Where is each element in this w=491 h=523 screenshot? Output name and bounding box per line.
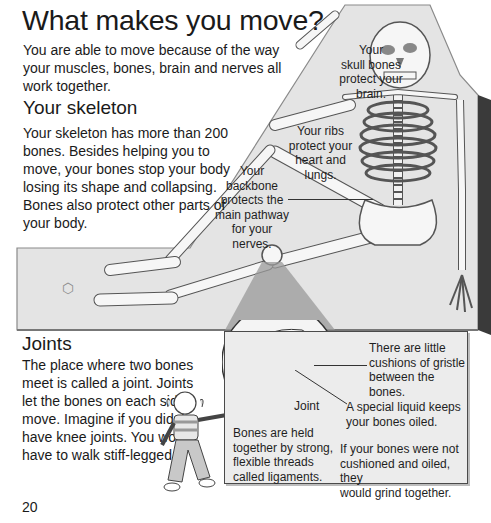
liquid-pointer-line bbox=[295, 370, 355, 410]
joints-heading: Joints bbox=[22, 333, 72, 355]
cube-logo-icon: ⬡ bbox=[62, 280, 74, 296]
liquid-label: A special liquid keeps your bones oiled. bbox=[346, 400, 471, 429]
skull-label: Your skull bones protect your brain. bbox=[332, 43, 410, 101]
intro-paragraph: You are able to move because of the way … bbox=[23, 41, 283, 95]
cushions-label: There are little cushions of gristle bet… bbox=[369, 341, 469, 399]
backbone-label: Your backbone protects the main pathway … bbox=[211, 164, 293, 251]
grind-label: If your bones were not cushioned and oil… bbox=[340, 442, 470, 500]
ribs-label: Your ribs protect your heart and lungs. bbox=[283, 124, 358, 182]
ligaments-label: Bones are held together by strong, flexi… bbox=[233, 426, 343, 484]
skeleton-heading: Your skeleton bbox=[23, 97, 137, 119]
page-number: 20 bbox=[22, 499, 38, 515]
cushions-pointer-line bbox=[314, 365, 367, 366]
backbone-pointer-line bbox=[288, 199, 373, 200]
skeleton-paragraph: Your skeleton has more than 200 bones. B… bbox=[23, 124, 238, 232]
page-title: What makes you move? bbox=[22, 4, 324, 37]
